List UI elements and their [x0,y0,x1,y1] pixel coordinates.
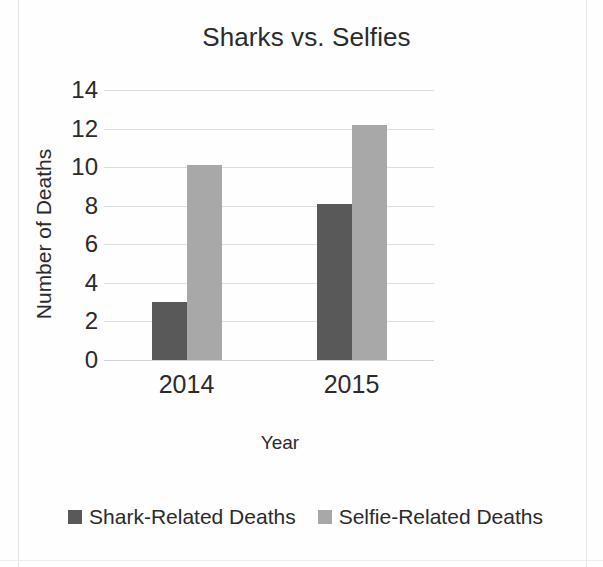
bar-2015-shark[interactable] [317,204,352,360]
bar-2014-selfie[interactable] [187,165,222,360]
y-axis-tick-label: 4 [85,271,98,295]
chart-title: Sharks vs. Selfies [0,22,603,53]
legend-item-label: Shark-Related Deaths [89,505,296,529]
plot-area [104,90,434,360]
legend-item-shark[interactable]: Shark-Related Deaths [68,505,296,529]
legend-swatch-icon [68,510,82,524]
gridline [104,360,434,361]
gridline [104,90,434,91]
legend-item-label: Selfie-Related Deaths [339,505,543,529]
legend-item-selfie[interactable]: Selfie-Related Deaths [318,505,543,529]
x-axis-label-2014: 2014 [127,370,247,399]
legend-swatch-icon [318,510,332,524]
page-edge-right [586,0,587,567]
y-axis-tick-label: 12 [71,117,98,141]
y-axis-tick-labels: 02468101214 [46,76,98,366]
page-edge-left [18,0,19,567]
y-axis-tick-label: 8 [85,194,98,218]
y-axis-tick-label: 14 [71,78,98,102]
x-axis-title: Year [130,432,430,454]
y-axis-tick-label: 10 [71,155,98,179]
chart-legend: Shark-Related DeathsSelfie-Related Death… [0,505,603,529]
y-axis-tick-label: 2 [85,309,98,333]
bar-2014-shark[interactable] [152,302,187,360]
y-axis-tick-label: 0 [85,348,98,372]
x-axis-label-2015: 2015 [292,370,412,399]
chart-page: Sharks vs. Selfies Number of Deaths 0246… [0,0,603,567]
bar-2015-selfie[interactable] [352,125,387,360]
x-axis-category-labels: 20142015 [104,370,434,410]
page-edge-bottom [0,560,603,561]
y-axis-tick-label: 6 [85,232,98,256]
